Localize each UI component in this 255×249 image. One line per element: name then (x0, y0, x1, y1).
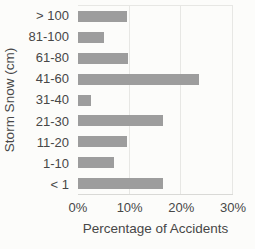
y-tick-label: 21-30 (0, 111, 74, 132)
y-tick-label: 41-60 (0, 68, 74, 89)
x-tick-label: 10% (117, 200, 143, 215)
y-tick-label: 11-20 (0, 132, 74, 153)
gridline-20% (180, 6, 181, 194)
bar-row (78, 27, 233, 48)
bar (78, 115, 163, 126)
bar-row (78, 69, 233, 90)
bar-row (78, 48, 233, 69)
bar (78, 11, 127, 22)
bar (78, 178, 163, 189)
gridline-10% (129, 6, 130, 194)
y-tick-label: < 1 (0, 174, 74, 195)
y-tick-label: 61-80 (0, 47, 74, 68)
y-tick-label: 81-100 (0, 26, 74, 47)
plot-area (78, 5, 233, 195)
y-tick-label: 1-10 (0, 153, 74, 174)
x-tick-label: 30% (220, 200, 246, 215)
x-axis-ticks: 0%10%20%30% (0, 200, 255, 215)
bar-row (78, 152, 233, 173)
bar-row (78, 110, 233, 131)
bar-row (78, 131, 233, 152)
bar-row (78, 90, 233, 111)
y-axis-ticks: > 10081-10061-8041-6031-4021-3011-201-10… (0, 5, 74, 195)
x-tick-label: 0% (69, 200, 88, 215)
bar (78, 32, 104, 43)
bar-row (78, 6, 233, 27)
gridline-30% (232, 6, 233, 194)
bar-row (78, 173, 233, 194)
bar (78, 95, 91, 106)
y-tick-label: > 100 (0, 5, 74, 26)
bar (78, 157, 114, 168)
bar (78, 136, 127, 147)
x-axis-title: Percentage of Accidents (78, 221, 233, 236)
x-tick-label: 20% (168, 200, 194, 215)
storm-snow-accidents-bar-chart: Storm Snow (cm) > 10081-10061-8041-6031-… (0, 0, 255, 249)
y-tick-label: 31-40 (0, 89, 74, 110)
bar (78, 53, 128, 64)
bar (78, 74, 199, 85)
